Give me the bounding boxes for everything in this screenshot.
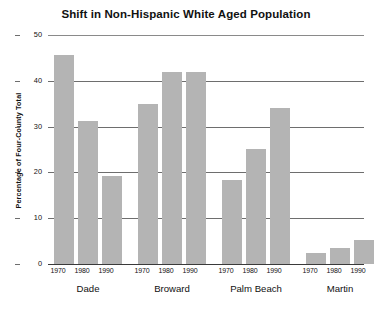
bar — [186, 72, 206, 264]
bar — [102, 176, 122, 264]
bar — [306, 253, 326, 264]
y-tick-mark-30 — [15, 127, 20, 128]
bar — [330, 248, 350, 264]
x-axis-line — [48, 264, 364, 265]
y-tick-mark-10 — [15, 218, 20, 219]
y-axis-title: Percentage of Four-County Total — [14, 66, 23, 236]
chart-title: Shift in Non-Hispanic White Aged Populat… — [0, 8, 372, 20]
bar — [78, 121, 98, 264]
y-tick-label-20: 20 — [20, 168, 42, 175]
bar — [270, 108, 290, 264]
plot-area — [48, 35, 364, 264]
x-year-label: 1990 — [90, 267, 122, 274]
x-year-label: 1990 — [174, 267, 206, 274]
bar — [246, 149, 266, 264]
gridline-40 — [48, 81, 364, 82]
y-tick-mark-0 — [15, 264, 20, 265]
y-tick-label-0: 0 — [20, 260, 42, 267]
y-tick-mark-20 — [15, 172, 20, 173]
bar — [138, 104, 158, 264]
y-tick-label-50: 50 — [20, 31, 42, 38]
gridline-50 — [48, 35, 364, 36]
bar — [222, 180, 242, 264]
y-tick-mark-50 — [15, 35, 20, 36]
y-tick-label-40: 40 — [20, 77, 42, 84]
x-group-label-martin: Martin — [280, 283, 378, 294]
x-year-label: 1990 — [258, 267, 290, 274]
y-tick-label-10: 10 — [20, 214, 42, 221]
bar — [162, 72, 182, 264]
y-tick-mark-40 — [15, 81, 20, 82]
bar — [354, 240, 374, 264]
bar — [54, 55, 74, 264]
y-tick-label-30: 30 — [20, 123, 42, 130]
x-year-label: 1990 — [342, 267, 374, 274]
